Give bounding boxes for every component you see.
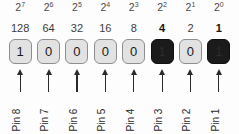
arrow-shaft	[20, 74, 21, 92]
exponent-label: 27	[15, 2, 25, 13]
decimal-cell: 32	[63, 23, 91, 39]
arrow-cell	[63, 69, 91, 93]
arrow-head	[46, 69, 52, 75]
bit-cell: 1	[6, 39, 34, 67]
pin-label: Pin 1	[211, 109, 221, 132]
pin-arrow-icon	[72, 69, 81, 92]
decimal-weight-row: 1286432168421	[6, 23, 233, 39]
bit-cell: 0	[120, 39, 148, 67]
pin-label: Pin 7	[41, 109, 51, 132]
bit-cell: 0	[34, 39, 62, 67]
pin-arrow-icon	[101, 69, 110, 92]
pin-cell: Pin 4	[120, 92, 148, 134]
pin-cell: Pin 8	[6, 92, 34, 134]
bit-box[interactable]: 0	[179, 39, 202, 64]
decimal-cell: 64	[34, 23, 62, 39]
pin-label: Pin 2	[183, 109, 193, 132]
exponent-cell: 22	[148, 2, 176, 20]
bit-box-row: 10000101	[6, 39, 233, 67]
decimal-cell: 128	[6, 23, 34, 39]
pin-arrow-icon	[16, 69, 25, 92]
bit-cell: 0	[176, 39, 204, 67]
exponent-cell: 27	[6, 2, 34, 20]
arrow-head	[159, 69, 165, 75]
bit-cell: 0	[91, 39, 119, 67]
arrow-cell	[6, 69, 34, 93]
decimal-weight-label: 128	[11, 23, 29, 34]
pin-label: Pin 6	[69, 109, 79, 132]
arrow-cell	[120, 69, 148, 93]
arrow-cell	[205, 69, 233, 93]
pin-arrow-icon	[214, 69, 223, 92]
exponent-label: 22	[157, 2, 167, 13]
decimal-cell: 2	[176, 23, 204, 39]
arrow-shaft	[190, 74, 191, 92]
decimal-weight-label: 4	[159, 23, 165, 34]
arrow-shaft	[48, 74, 49, 92]
bit-box[interactable]: 0	[65, 39, 88, 64]
arrow-head	[102, 69, 108, 75]
bit-box[interactable]: 1	[207, 39, 230, 64]
pin-arrow-icon	[186, 69, 195, 92]
exponent-cell: 25	[63, 2, 91, 20]
decimal-weight-label: 32	[71, 23, 83, 34]
pin-arrow-icon	[158, 69, 167, 92]
exponent-label: 24	[100, 2, 110, 13]
decimal-weight-label: 2	[187, 23, 193, 34]
arrow-cell	[34, 69, 62, 93]
exponent-cell: 21	[176, 2, 204, 20]
pin-cell: Pin 3	[148, 92, 176, 134]
exponent-label: 21	[186, 2, 196, 13]
decimal-cell: 8	[120, 23, 148, 39]
pin-arrow-icon	[44, 69, 53, 92]
decimal-cell: 1	[205, 23, 233, 39]
decimal-cell: 16	[91, 23, 119, 39]
exponent-label: 25	[72, 2, 82, 13]
arrow-head	[187, 69, 193, 75]
decimal-weight-label: 1	[216, 23, 222, 34]
arrow-shaft	[133, 74, 134, 92]
bit-box[interactable]: 0	[37, 39, 60, 64]
arrow-cell	[176, 69, 204, 93]
exponent-label: 20	[214, 2, 224, 13]
decimal-weight-label: 16	[99, 23, 111, 34]
exponent-cell: 23	[120, 2, 148, 20]
arrow-cell	[91, 69, 119, 93]
decimal-weight-label: 64	[42, 23, 54, 34]
exponent-power: 7	[21, 1, 25, 8]
bit-box[interactable]: 1	[151, 39, 174, 64]
pin-label-row: Pin 8Pin 7Pin 6Pin 5Pin 4Pin 3Pin 2Pin 1	[6, 92, 233, 134]
exponent-cell: 24	[91, 2, 119, 20]
exponent-cell: 20	[205, 2, 233, 20]
arrow-shaft	[218, 74, 219, 92]
bit-cell: 1	[205, 39, 233, 67]
pin-cell: Pin 5	[91, 92, 119, 134]
arrow-head	[74, 69, 80, 75]
bit-box[interactable]: 0	[122, 39, 145, 64]
exponent-label: 23	[129, 2, 139, 13]
exponent-power: 0	[220, 1, 224, 8]
arrow-shaft	[105, 74, 106, 92]
exponent-row: 2726252423222120	[6, 2, 233, 20]
exponent-power: 4	[106, 1, 110, 8]
decimal-cell: 4	[148, 23, 176, 39]
arrow-row	[6, 69, 233, 93]
decimal-weight-label: 8	[131, 23, 137, 34]
bit-box[interactable]: 1	[9, 39, 32, 64]
exponent-cell: 26	[34, 2, 62, 20]
exponent-label: 26	[44, 2, 54, 13]
pin-cell: Pin 2	[176, 92, 204, 134]
exponent-power: 1	[191, 1, 195, 8]
binary-weight-pin-diagram: 2726252423222120 1286432168421 10000101 …	[0, 0, 239, 134]
pin-arrow-icon	[129, 69, 138, 92]
bit-box[interactable]: 0	[94, 39, 117, 64]
arrow-cell	[148, 69, 176, 93]
exponent-power: 3	[135, 1, 139, 8]
arrow-head	[131, 69, 137, 75]
pin-label: Pin 8	[12, 109, 22, 132]
pin-cell: Pin 7	[34, 92, 62, 134]
pin-cell: Pin 6	[63, 92, 91, 134]
bit-cell: 1	[148, 39, 176, 67]
arrow-head	[17, 69, 23, 75]
exponent-power: 2	[163, 1, 167, 8]
